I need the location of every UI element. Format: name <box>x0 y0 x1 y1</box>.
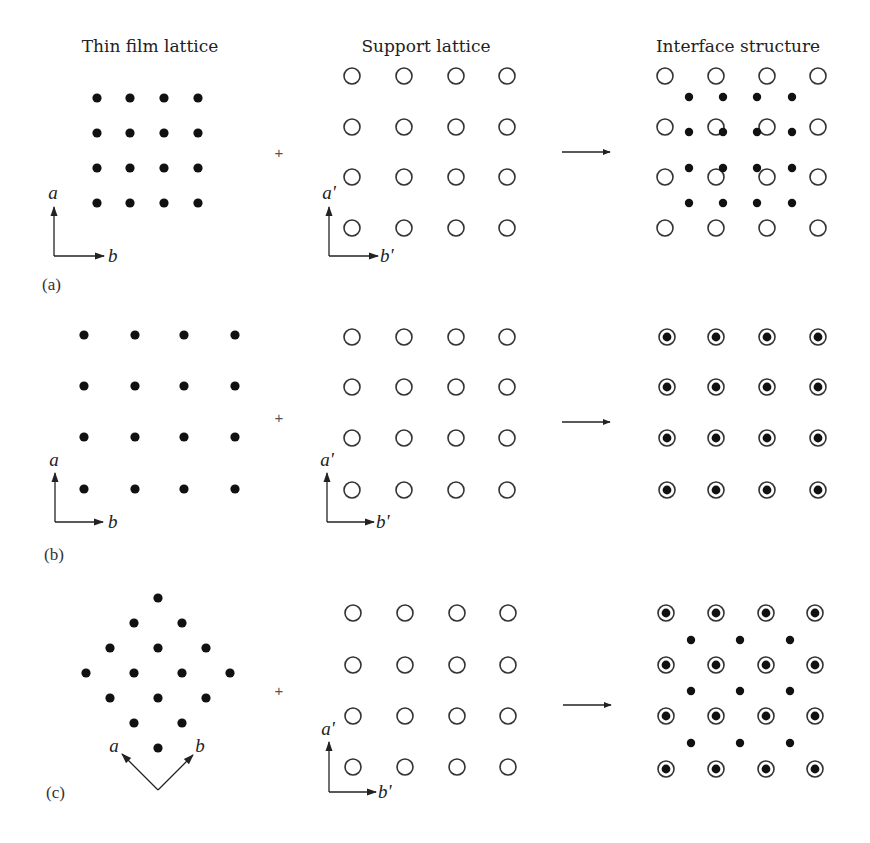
film-atom <box>79 432 88 441</box>
support-atom <box>344 220 360 236</box>
film-atom <box>719 164 727 172</box>
film-atom-on-site <box>712 661 721 670</box>
panel-b-thin-film-lattice <box>79 330 239 493</box>
support-atom <box>448 430 464 446</box>
film-atom-on-site <box>814 434 823 443</box>
support-atom <box>344 169 360 185</box>
film-atom <box>786 687 794 695</box>
support-atom <box>500 708 516 724</box>
film-atom <box>125 128 134 137</box>
film-atom <box>92 128 101 137</box>
support-atom <box>344 68 360 84</box>
support-atom <box>759 169 775 185</box>
support-atom <box>810 169 826 185</box>
axis-label-a-prime: a' <box>321 718 336 739</box>
film-atom <box>753 199 761 207</box>
film-atom <box>788 93 796 101</box>
axis-label-b: b <box>108 511 118 532</box>
support-atom <box>759 68 775 84</box>
film-atom <box>92 93 101 102</box>
film-atom-on-site <box>763 486 772 495</box>
support-atom <box>708 68 724 84</box>
axis-label-a: a <box>48 182 58 203</box>
film-atom <box>788 128 796 136</box>
panel-a-support-lattice <box>344 68 515 236</box>
film-atom-on-site <box>712 765 721 774</box>
plus-sign-b: + <box>275 409 284 426</box>
support-atom <box>448 119 464 135</box>
axis-b-vector <box>158 755 193 790</box>
film-atom-on-site <box>811 712 820 721</box>
panel-label-b: (b) <box>44 545 64 564</box>
support-atom <box>396 220 412 236</box>
film-atom <box>129 668 138 677</box>
film-atom <box>177 668 186 677</box>
film-atom <box>79 484 88 493</box>
film-atom-on-site <box>712 486 721 495</box>
support-atom <box>344 329 360 345</box>
film-atom <box>201 693 210 702</box>
support-atom <box>396 68 412 84</box>
film-atom-on-site <box>811 765 820 774</box>
panel-label-c: (c) <box>46 783 65 802</box>
support-atom <box>345 605 361 621</box>
film-atom <box>193 163 202 172</box>
support-atom <box>810 68 826 84</box>
film-atom <box>130 432 139 441</box>
film-atom-on-site <box>762 661 771 670</box>
title-interface-structure: Interface structure <box>656 36 820 56</box>
axes-c-thin-film: a b <box>109 735 205 790</box>
film-atom <box>179 381 188 390</box>
axis-label-b: b <box>108 245 118 266</box>
film-atom <box>129 718 138 727</box>
film-atom <box>130 484 139 493</box>
film-atom <box>788 199 796 207</box>
panel-b-support-lattice <box>344 329 515 498</box>
support-atom <box>397 657 413 673</box>
film-atom <box>201 643 210 652</box>
support-atom <box>448 169 464 185</box>
film-atom <box>230 484 239 493</box>
support-atom <box>397 708 413 724</box>
support-atom <box>499 119 515 135</box>
film-atom <box>153 743 162 752</box>
film-atom <box>687 636 695 644</box>
film-atom <box>193 93 202 102</box>
axes-a-thin-film: a b <box>48 182 117 266</box>
support-atom <box>499 430 515 446</box>
support-atom <box>810 220 826 236</box>
support-atom <box>448 68 464 84</box>
film-atom-on-site <box>663 333 672 342</box>
support-atom <box>449 759 465 775</box>
film-atom-on-site <box>763 434 772 443</box>
film-atom <box>687 739 695 747</box>
film-atom <box>225 668 234 677</box>
support-atom <box>344 482 360 498</box>
film-atom <box>193 198 202 207</box>
support-atom <box>657 119 673 135</box>
support-atom <box>448 220 464 236</box>
support-atom <box>657 68 673 84</box>
film-atom-on-site <box>663 383 672 392</box>
support-atom <box>759 220 775 236</box>
support-atom <box>397 605 413 621</box>
film-atom <box>230 432 239 441</box>
support-atom <box>396 329 412 345</box>
axis-label-a-prime: a' <box>322 182 337 203</box>
film-atom <box>105 693 114 702</box>
axis-label-b-prime: b' <box>376 511 391 532</box>
film-atom-on-site <box>762 609 771 618</box>
film-atom <box>179 432 188 441</box>
support-atom <box>810 119 826 135</box>
film-atom-on-site <box>662 712 671 721</box>
panel-c-support-lattice <box>345 605 516 775</box>
film-atom <box>179 330 188 339</box>
film-atom <box>687 687 695 695</box>
film-atom-on-site <box>662 765 671 774</box>
film-atom-on-site <box>712 609 721 618</box>
support-atom <box>396 430 412 446</box>
support-atom <box>499 482 515 498</box>
film-atom <box>685 93 693 101</box>
film-atom <box>153 593 162 602</box>
support-atom <box>448 482 464 498</box>
